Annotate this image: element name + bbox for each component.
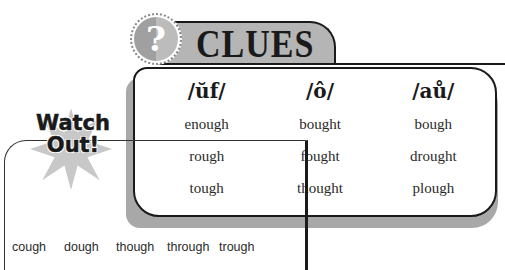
watch-out-word-list: cough dough though through trough — [12, 240, 271, 254]
word-item: cough — [12, 240, 64, 254]
clues-column-au: /aů/ bough drought plough — [377, 74, 490, 214]
watch-out-title: Watch Out! — [33, 112, 113, 156]
word-item: dough — [64, 240, 116, 254]
clues-title: CLUES — [196, 22, 314, 66]
word-item: bough — [415, 108, 453, 140]
word-item: bought — [299, 108, 341, 140]
word-item: drought — [410, 140, 457, 172]
column-heading: /aů/ — [412, 74, 454, 108]
watch-out-title-line1: Watch — [33, 112, 113, 134]
column-heading: /ô/ — [306, 74, 334, 108]
question-mark-icon: ? — [134, 17, 178, 61]
word-item: though — [116, 240, 167, 254]
word-item: plough — [412, 172, 454, 204]
column-heading: /ŭf/ — [188, 74, 226, 108]
watch-out-title-line2: Out! — [33, 134, 113, 156]
word-item: through — [167, 240, 219, 254]
word-item: trough — [219, 240, 271, 254]
word-item: enough — [185, 108, 229, 140]
question-mark-glyph: ? — [146, 19, 166, 59]
